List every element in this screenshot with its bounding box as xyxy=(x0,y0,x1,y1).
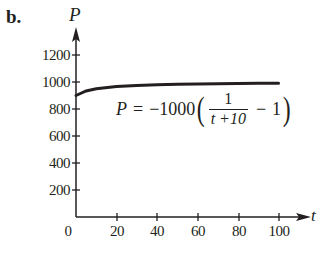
y-tick-label: 800 xyxy=(49,102,70,117)
formula-minus: − xyxy=(256,99,266,120)
x-tick-label: 20 xyxy=(97,224,137,239)
formula-equals: = xyxy=(133,99,143,120)
x-tick-label: 60 xyxy=(178,224,218,239)
y-tick-label: 600 xyxy=(49,129,70,144)
panel-label: b. xyxy=(6,6,21,28)
formula-denominator: t +10 xyxy=(209,109,248,128)
y-tick-label: 200 xyxy=(49,183,70,198)
formula-coefficient: −1000 xyxy=(149,99,195,120)
formula-one: 1 xyxy=(272,99,281,120)
formula-lhs: P xyxy=(116,99,127,120)
formula-fraction: 1 t +10 xyxy=(209,90,248,128)
y-axis-label: P xyxy=(69,4,81,26)
x-tick-label: 0 xyxy=(48,224,88,239)
formula-close-paren: ) xyxy=(283,92,291,126)
formula-numerator: 1 xyxy=(224,90,232,109)
formula-annotation: P = −1000 ( 1 t +10 − 1 ) xyxy=(116,86,292,132)
y-tick-label: 1200 xyxy=(42,48,70,63)
formula-open-paren: ( xyxy=(197,92,205,126)
x-tick-label: 100 xyxy=(259,224,299,239)
y-tick-label: 1000 xyxy=(42,75,70,90)
y-tick-label: 400 xyxy=(49,156,70,171)
x-tick-label: 80 xyxy=(219,224,259,239)
x-axis-label: t xyxy=(311,206,316,226)
x-tick-label: 40 xyxy=(137,224,177,239)
